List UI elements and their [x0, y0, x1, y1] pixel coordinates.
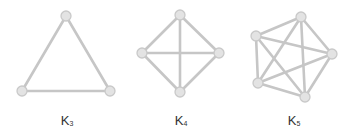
graph-vertex — [214, 48, 224, 58]
graph-k5 — [251, 12, 337, 102]
graph-label-k4: K4 — [175, 113, 188, 128]
graph-vertex — [327, 49, 337, 59]
graph-edge — [22, 16, 66, 91]
graph-vertex — [175, 87, 185, 97]
graph-vertex — [17, 86, 27, 96]
graph-edge — [142, 53, 180, 92]
graph-label-k3: K3 — [61, 113, 74, 128]
graph-vertex — [296, 12, 306, 22]
graph-edge — [256, 36, 258, 83]
graph-vertex — [105, 86, 115, 96]
graph-edge — [258, 54, 332, 83]
graph-edge — [180, 53, 219, 92]
graph-vertex — [175, 10, 185, 20]
graph-edge — [301, 17, 305, 97]
graph-vertex — [300, 92, 310, 102]
graph-edge — [180, 15, 219, 53]
graph-vertex — [137, 48, 147, 58]
graph-edge — [66, 16, 110, 91]
graph-k4 — [137, 10, 224, 97]
graph-edge — [142, 15, 180, 53]
graph-vertex — [61, 11, 71, 21]
graph-vertex — [253, 78, 263, 88]
graph-vertex — [251, 31, 261, 41]
graph-label-k5: K5 — [288, 113, 301, 128]
graph-k3 — [17, 11, 115, 96]
